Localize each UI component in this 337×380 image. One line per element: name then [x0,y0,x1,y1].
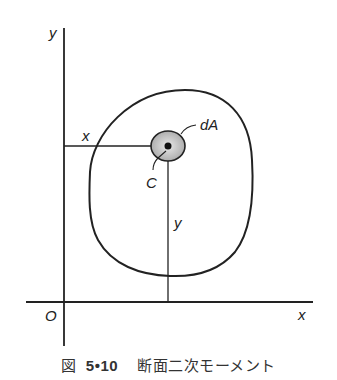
centroid-label: C [146,174,157,191]
x-distance-label: x [81,127,90,144]
dA-leader [181,125,196,134]
figure-caption: 図 5•10 断面二次モーメント [0,354,337,375]
centroid-dot [165,143,172,150]
origin-label: O [45,307,57,324]
caption-number: 5•10 [86,357,118,374]
cross-section-outline [89,90,252,276]
caption-prefix: 図 [61,357,77,375]
x-axis-label: x [297,306,306,323]
caption-title: 断面二次モーメント [137,357,276,375]
dA-label: dA [200,116,218,133]
y-axis-label: y [48,24,58,41]
moment-of-inertia-diagram: y x dA C y O x [0,0,337,380]
y-distance-label: y [173,214,183,231]
